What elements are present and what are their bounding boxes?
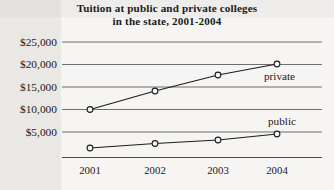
x-tick-label-2004: 2004 [257,165,297,176]
data-point-private-2003 [215,72,221,78]
data-point-public-2001 [87,145,93,151]
chart-canvas [0,0,334,190]
series-label-private: private [264,71,295,82]
series-label-public: public [268,116,296,127]
data-point-private-2004 [274,61,280,67]
x-tick-label-2003: 2003 [198,165,238,176]
x-tick-label-2001: 2001 [70,165,110,176]
data-point-private-2002 [152,88,158,94]
data-point-public-2003 [215,137,221,143]
chart-figure: Tuition at public and private colleges i… [0,0,334,190]
plot-area: $25,000 $20,000 $15,000 $10,000 $5,000 [0,0,334,190]
series-line-public [87,131,280,151]
data-point-private-2001 [87,107,93,113]
data-point-public-2002 [152,141,158,147]
data-point-public-2004 [274,131,280,137]
x-tick-label-2002: 2002 [135,165,175,176]
